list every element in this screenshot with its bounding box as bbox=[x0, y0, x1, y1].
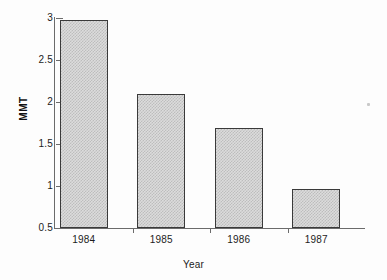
plot-area bbox=[55, 18, 365, 228]
y-tick-label: 0.5 bbox=[38, 223, 53, 233]
y-tick-label: 2.5 bbox=[38, 55, 53, 65]
y-tick-label: 1 bbox=[47, 181, 53, 191]
x-tick-label: 1987 bbox=[286, 234, 346, 245]
bar-1987 bbox=[292, 189, 340, 228]
x-tick-mark bbox=[288, 229, 289, 233]
x-tick-mark bbox=[133, 229, 134, 233]
bar-1984 bbox=[60, 20, 108, 228]
x-axis-title: Year bbox=[0, 259, 387, 270]
x-tick-label: 1986 bbox=[209, 234, 269, 245]
x-tick-mark bbox=[210, 229, 211, 233]
y-axis-title: MMT bbox=[18, 96, 29, 120]
y-tick-label: 2 bbox=[47, 97, 53, 107]
y-tick-label: 1.5 bbox=[38, 139, 53, 149]
scan-artifact-speck bbox=[367, 103, 370, 106]
x-tick-label: 1985 bbox=[131, 234, 191, 245]
bar-chart-figure: 0.511.522.53 1984198519861987 MMT Year bbox=[0, 0, 387, 280]
bar-1985 bbox=[137, 94, 185, 228]
y-tick-mark bbox=[56, 228, 63, 229]
bar-1986 bbox=[215, 128, 263, 228]
y-tick-label: 3 bbox=[47, 13, 53, 23]
x-tick-label: 1984 bbox=[54, 234, 114, 245]
